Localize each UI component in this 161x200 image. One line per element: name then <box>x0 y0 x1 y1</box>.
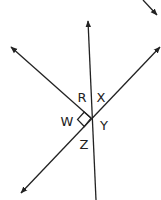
angle-label-z: Z <box>80 138 89 151</box>
right-angle-marker <box>78 112 92 127</box>
angle-label-y: Y <box>100 119 108 132</box>
upper-left-ray <box>11 47 91 118</box>
angle-label-x: X <box>97 91 106 104</box>
vertical-line <box>88 21 96 200</box>
angle-label-r: R <box>77 91 86 104</box>
angle-label-w: W <box>61 115 74 128</box>
corner-arrow <box>143 0 157 15</box>
